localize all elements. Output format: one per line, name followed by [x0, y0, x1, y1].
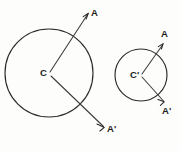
large-circle-ray-a-label: A	[91, 8, 98, 18]
small-circle-ray-a-prime-line	[142, 77, 164, 101]
small-circle-ray-a-prime-label: A'	[162, 106, 172, 116]
figure-canvas: C A A' C' A A'	[0, 0, 180, 151]
large-circle-ray-a-prime-line	[51, 76, 104, 127]
large-circle-ray-a-arrowhead	[83, 13, 88, 19]
figure-drawing	[0, 0, 180, 151]
large-circle-ray-a-prime-arrowhead	[97, 124, 104, 131]
large-circle-ray-a-prime-label: A'	[107, 124, 117, 134]
small-circle-center-label: C'	[130, 70, 140, 80]
small-circle	[115, 49, 167, 101]
small-circle-ray-a-label: A	[161, 29, 168, 39]
large-circle-center-label: C	[40, 68, 47, 78]
